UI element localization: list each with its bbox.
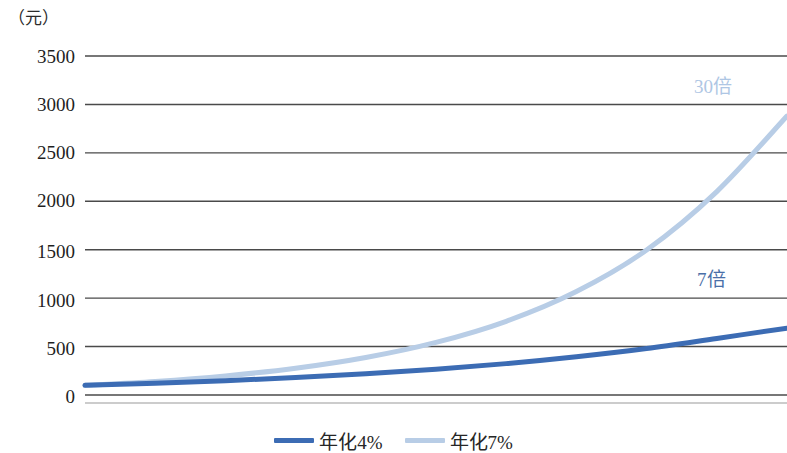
annotation-30x: 30倍 xyxy=(694,77,732,96)
chart-legend: 年化4% 年化7% xyxy=(0,427,787,453)
legend-item-annualized-4pct: 年化4% xyxy=(274,427,382,453)
legend-item-annualized-7pct: 年化7% xyxy=(405,427,513,453)
plot-area xyxy=(0,0,787,453)
chart-container: （元） 3500 3000 2500 2000 1500 1000 500 0 … xyxy=(0,0,787,453)
legend-swatch-icon-dark xyxy=(274,438,314,443)
annotation-7x: 7倍 xyxy=(697,270,726,289)
legend-label-annualized-4pct: 年化4% xyxy=(319,427,382,453)
legend-swatch-icon-light xyxy=(405,438,445,443)
legend-label-annualized-7pct: 年化7% xyxy=(450,427,513,453)
